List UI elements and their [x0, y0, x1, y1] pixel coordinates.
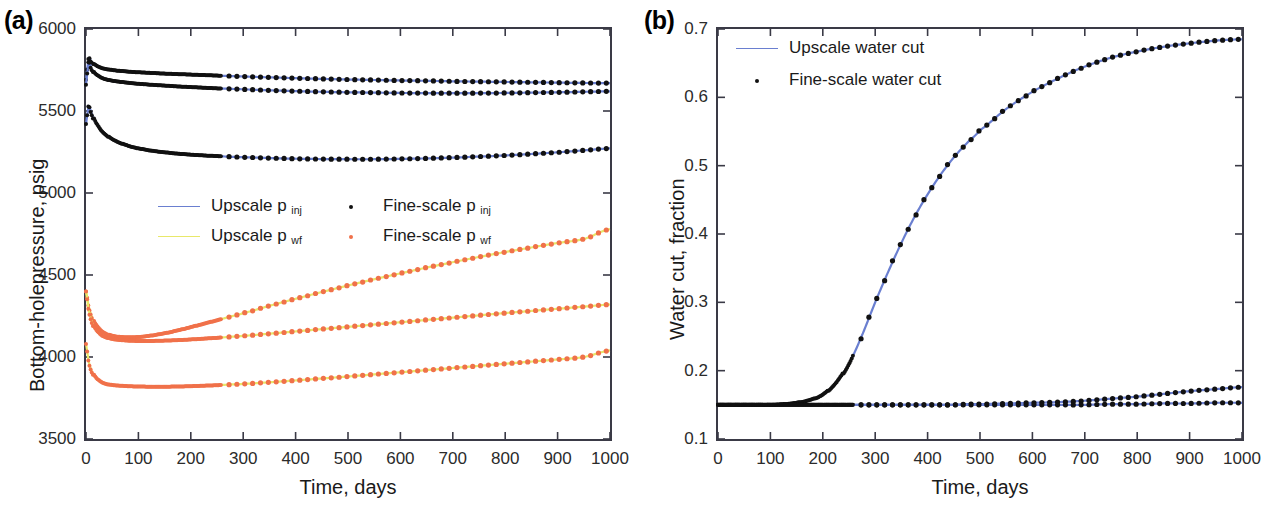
fine-scale-marker [274, 379, 279, 384]
fine-scale-marker [87, 105, 91, 109]
legend-label-fine-pinj: Fine-scale p inj [383, 196, 491, 216]
fine-scale-marker [454, 315, 459, 320]
fine-scale-marker [234, 382, 239, 387]
xtick-label: 0 [81, 449, 90, 469]
ytick-label: 0.5 [640, 156, 708, 176]
fine-scale-marker [352, 77, 357, 82]
fine-scale-marker [344, 324, 349, 329]
fine-scale-marker [470, 91, 475, 96]
fine-scale-marker [1220, 38, 1225, 43]
fine-scale-marker [533, 90, 538, 95]
fine-scale-marker [1189, 388, 1194, 393]
fine-scale-marker [557, 240, 562, 245]
fine-scale-marker [423, 156, 428, 161]
fine-scale-marker [533, 359, 538, 364]
fine-scale-marker [274, 75, 279, 80]
fine-scale-marker [352, 90, 357, 95]
fine-scale-marker [250, 74, 255, 79]
fine-scale-marker [305, 156, 310, 161]
fine-scale-marker [486, 362, 491, 367]
legend-item-upscale-pinj: Upscale p inj [158, 196, 302, 216]
fine-scale-marker [423, 265, 428, 270]
fine-scale-marker [289, 378, 294, 383]
xtick-label: 400 [281, 449, 309, 469]
fine-scale-marker [478, 254, 483, 259]
fine-scale-marker [321, 156, 326, 161]
fine-scale-marker [258, 155, 263, 160]
fine-scale-marker [415, 368, 420, 373]
fine-scale-marker [572, 89, 577, 94]
fine-scale-marker [86, 358, 90, 362]
fine-scale-marker [1094, 402, 1099, 407]
fine-scale-marker [258, 87, 263, 92]
fine-scale-marker [1196, 401, 1201, 406]
fine-scale-marker [392, 370, 397, 375]
fine-scale-marker [462, 314, 467, 319]
fine-scale-marker [1196, 40, 1201, 45]
fine-scale-marker [439, 366, 444, 371]
fine-scale-marker [1141, 393, 1146, 398]
fine-scale-marker [470, 256, 475, 261]
fine-scale-marker [1165, 391, 1170, 396]
legend-label-upscale-pinj: Upscale p inj [211, 196, 302, 216]
fine-scale-marker [392, 78, 397, 83]
fine-scale-marker [486, 79, 491, 84]
fine-scale-marker [557, 357, 562, 362]
fine-scale-marker [250, 155, 255, 160]
upscale-curve [718, 39, 1242, 405]
fine-scale-marker [462, 91, 467, 96]
fine-scale-marker [368, 77, 373, 82]
fine-scale-marker [376, 157, 381, 162]
fine-scale-marker [549, 80, 554, 85]
xtick-label: 800 [491, 449, 519, 469]
data-series [84, 342, 610, 389]
fine-scale-marker [1173, 42, 1178, 47]
fine-scale-marker [344, 283, 349, 288]
fine-scale-marker [866, 315, 871, 320]
fine-scale-marker [321, 289, 326, 294]
xtick-label: 1000 [591, 449, 629, 469]
fine-scale-marker [1118, 402, 1123, 407]
fine-scale-marker [360, 323, 365, 328]
fine-scale-marker [84, 289, 88, 293]
fine-scale-marker [1228, 37, 1233, 42]
panel-a: (a) 350040004500500055006000 01002003004… [0, 0, 640, 507]
fine-scale-marker [1047, 402, 1052, 407]
fine-scale-marker [580, 304, 585, 309]
fine-scale-marker [281, 330, 286, 335]
fine-scale-marker [1055, 402, 1060, 407]
fine-scale-marker [1000, 109, 1005, 114]
fine-scale-marker [882, 402, 887, 407]
fine-scale-marker [866, 402, 871, 407]
fine-scale-marker [557, 150, 562, 155]
fine-scale-marker [321, 76, 326, 81]
fine-scale-marker [525, 90, 530, 95]
legend-label-fine-watercut: Fine-scale water cut [789, 70, 941, 90]
fine-scale-marker [1236, 37, 1241, 42]
fine-scale-marker [266, 155, 271, 160]
ytick-label: 6000 [0, 19, 76, 39]
fine-scale-marker [486, 253, 491, 258]
fine-scale-marker [945, 162, 950, 167]
fine-scale-marker [447, 79, 452, 84]
fine-scale-marker [226, 86, 231, 91]
fine-scale-marker [462, 79, 467, 84]
fine-scale-marker [913, 212, 918, 217]
fine-scale-marker [368, 372, 373, 377]
fine-scale-marker [572, 80, 577, 85]
fine-scale-marker [242, 155, 247, 160]
fine-scale-marker [219, 87, 223, 91]
fine-scale-marker [250, 333, 255, 338]
fine-scale-marker [921, 402, 926, 407]
fine-scale-marker [517, 247, 522, 252]
fine-scale-marker [929, 185, 934, 190]
panel-b-data-canvas [718, 29, 1242, 439]
fine-scale-marker [360, 279, 365, 284]
fine-scale-marker [1149, 401, 1154, 406]
fine-scale-marker [344, 157, 349, 162]
fine-scale-marker [874, 296, 879, 301]
fine-scale-marker [376, 371, 381, 376]
fine-scale-marker [384, 274, 389, 279]
fine-scale-marker [509, 79, 514, 84]
fine-scale-marker [937, 402, 942, 407]
